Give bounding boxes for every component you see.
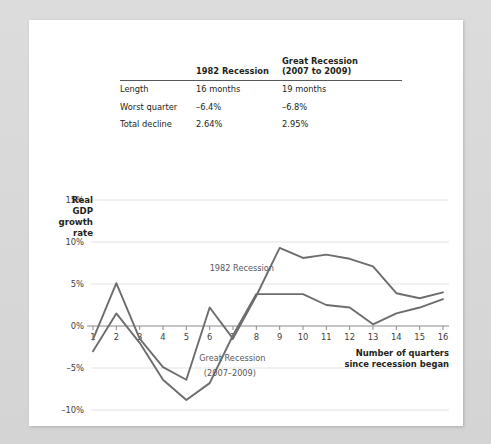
- table-header-great-recession-line1: Great Recession: [282, 56, 402, 66]
- chart-annotation: Great Recession: [199, 353, 265, 363]
- y-axis-tick-label: 0%: [71, 321, 84, 331]
- chart-annotation: 1982 Recession: [210, 263, 274, 273]
- y-axis-title-line: GDP: [35, 206, 93, 217]
- page-background: 1982 Recession Great Recession (2007 to …: [0, 0, 491, 444]
- y-axis-tick-label: 5%: [71, 279, 84, 289]
- x-axis-tick-label: 12: [344, 332, 355, 342]
- x-axis-title-line: Number of quarters: [356, 348, 449, 358]
- cell-total-decline-1982: 2.64%: [196, 116, 282, 134]
- x-axis-tick-label: 4: [160, 332, 165, 342]
- y-axis-tick-label: –5%: [67, 363, 85, 373]
- x-axis-title-line: since recession began: [344, 359, 449, 369]
- table-head: 1982 Recession Great Recession (2007 to …: [120, 56, 402, 81]
- x-axis-tick-label: 8: [254, 332, 259, 342]
- x-axis-title-group: Number of quarterssince recession began: [344, 348, 449, 369]
- y-axis-title-line: Real: [35, 195, 93, 206]
- y-axis-title-line: rate: [35, 228, 93, 239]
- x-axis-tick-label: 15: [414, 332, 425, 342]
- row-label-length: Length: [120, 81, 196, 99]
- table-row: Worst quarter –6.4% –6.8%: [120, 99, 402, 117]
- x-axis-tick-label: 9: [277, 332, 282, 342]
- x-axis-tick-label: 16: [438, 332, 449, 342]
- row-label-worst-quarter: Worst quarter: [120, 99, 196, 117]
- x-axis-tick-label: 14: [391, 332, 402, 342]
- gridlines-group: [91, 200, 449, 410]
- cell-total-decline-great: 2.95%: [282, 116, 402, 134]
- table-header-row: 1982 Recession Great Recession (2007 to …: [120, 56, 402, 81]
- gdp-growth-line-chart: RealGDPgrowthrate –10%–5%0%5%10%15% 1234…: [29, 172, 463, 422]
- table-body: Length 16 months 19 months Worst quarter…: [120, 81, 402, 134]
- x-axis-group: [87, 326, 449, 330]
- table-header-great-recession-line2: (2007 to 2009): [282, 66, 402, 76]
- row-label-total-decline: Total decline: [120, 116, 196, 134]
- table-row: Length 16 months 19 months: [120, 81, 402, 99]
- x-axis-tick-label: 6: [207, 332, 212, 342]
- cell-worst-quarter-1982: –6.4%: [196, 99, 282, 117]
- x-axis-tick-label: 11: [321, 332, 332, 342]
- x-axis-tick-label: 10: [298, 332, 309, 342]
- chart-canvas: –10%–5%0%5%10%15% 1234567891011121314151…: [29, 172, 463, 422]
- x-axis-labels-group: 12345678910111213141516: [90, 332, 448, 342]
- annotations-group: 1982 RecessionGreat Recession(2007–2009): [199, 263, 274, 378]
- chart-annotation: (2007–2009): [204, 368, 256, 378]
- x-axis-tick-label: 13: [368, 332, 379, 342]
- y-axis-title: RealGDPgrowthrate: [35, 195, 93, 239]
- x-axis-tick-label: 5: [184, 332, 189, 342]
- x-axis-tick-label: 2: [114, 332, 119, 342]
- figure-card: 1982 Recession Great Recession (2007 to …: [29, 20, 463, 426]
- comparison-table: 1982 Recession Great Recession (2007 to …: [120, 56, 402, 134]
- recession-comparison-table: 1982 Recession Great Recession (2007 to …: [120, 56, 440, 134]
- table-header-blank: [120, 56, 196, 81]
- cell-length-1982: 16 months: [196, 81, 282, 99]
- cell-length-great: 19 months: [282, 81, 402, 99]
- y-axis-tick-label: –10%: [61, 405, 84, 415]
- y-axis-title-line: growth: [35, 217, 93, 228]
- cell-worst-quarter-great: –6.8%: [282, 99, 402, 117]
- table-row: Total decline 2.64% 2.95%: [120, 116, 402, 134]
- table-header-great-recession: Great Recession (2007 to 2009): [282, 56, 402, 81]
- table-header-1982: 1982 Recession: [196, 56, 282, 81]
